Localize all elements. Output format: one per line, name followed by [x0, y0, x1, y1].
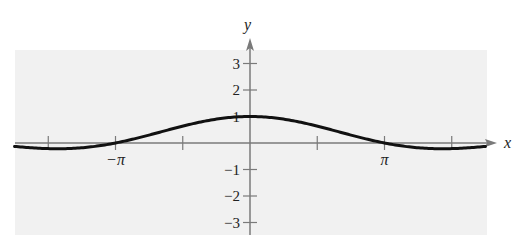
- x-tick-label: π: [380, 151, 389, 168]
- function-plot: x y −ππ 321−1−2−3: [0, 0, 516, 245]
- y-tick-label: −2: [224, 188, 240, 204]
- y-tick-label: −3: [224, 215, 240, 231]
- y-tick-label: −1: [224, 162, 240, 178]
- x-tick-label: −π: [106, 151, 126, 168]
- y-axis-label: y: [242, 16, 252, 34]
- y-tick-label: 2: [233, 82, 241, 98]
- y-tick-label: 3: [233, 56, 241, 72]
- x-axis-label: x: [503, 134, 511, 151]
